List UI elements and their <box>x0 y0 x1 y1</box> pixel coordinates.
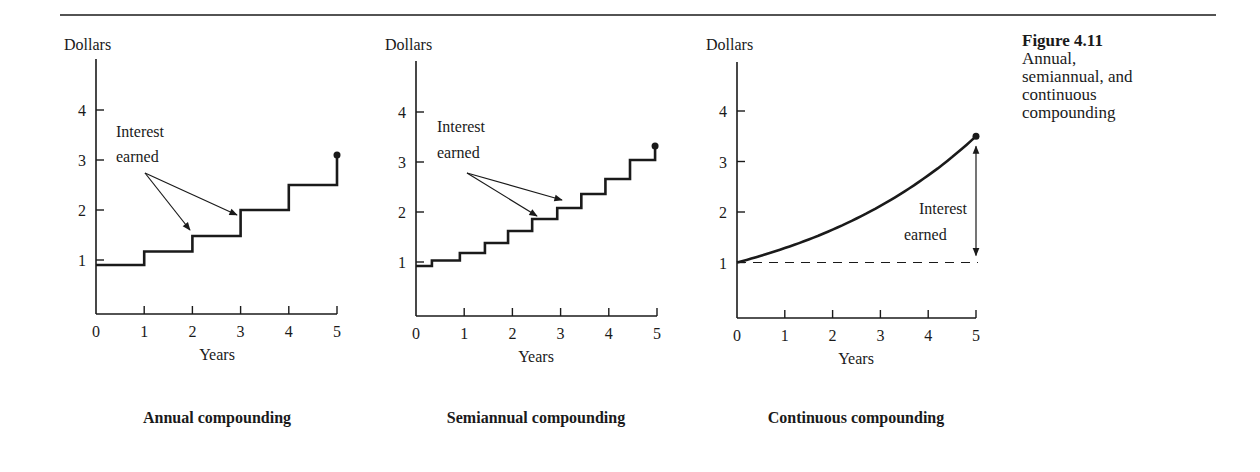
x-tick-label: 3 <box>876 327 884 344</box>
y-tick-label: 1 <box>398 254 406 271</box>
x-tick-label: 4 <box>285 323 293 340</box>
step-line <box>96 155 337 265</box>
figure-caption: Figure 4.11 Annual, semiannual, and cont… <box>1022 32 1222 122</box>
y-ticks: 1234 <box>78 102 104 269</box>
y-axis-label: Dollars <box>64 36 111 53</box>
chart-title: Semiannual compounding <box>447 409 625 427</box>
x-axis-label: Years <box>518 348 554 365</box>
y-axis-label: Dollars <box>706 36 753 53</box>
y-tick-label: 4 <box>398 104 406 121</box>
caption-line: semiannual, and <box>1022 68 1222 86</box>
y-tick-label: 3 <box>78 152 86 169</box>
chart-title: Continuous compounding <box>768 409 945 427</box>
y-tick-label: 3 <box>398 154 406 171</box>
chart-continuous: Dollars 1234 012345 Years Interest earne… <box>706 36 980 427</box>
x-tick-label: 5 <box>972 327 980 344</box>
annotation-arrow <box>467 173 537 216</box>
x-tick-label: 4 <box>924 327 932 344</box>
y-ticks: 1234 <box>719 103 745 272</box>
x-tick-label: 0 <box>412 325 420 342</box>
end-point-marker <box>652 143 659 150</box>
x-tick-label: 2 <box>829 327 837 344</box>
step-series <box>416 146 655 266</box>
y-axis-label: Dollars <box>385 36 432 53</box>
figure-number: Figure 4.11 <box>1022 32 1222 50</box>
annotation-line-1: Interest <box>437 118 486 135</box>
y-ticks: 1234 <box>398 104 424 271</box>
y-tick-label: 2 <box>398 204 406 221</box>
chart-semiannual: Dollars 1234 012345 Years Interest earne… <box>385 36 661 427</box>
x-tick-label: 3 <box>237 323 245 340</box>
x-ticks: 012345 <box>92 306 341 340</box>
y-tick-label: 4 <box>78 102 86 119</box>
x-tick-label: 2 <box>188 323 196 340</box>
annotation-arrow <box>145 173 237 215</box>
x-ticks: 012345 <box>733 310 980 344</box>
x-axis-label: Years <box>199 346 235 363</box>
x-tick-label: 1 <box>781 327 789 344</box>
x-tick-label: 1 <box>460 325 468 342</box>
y-tick-label: 2 <box>719 204 727 221</box>
annotation-line-1: Interest <box>919 200 968 217</box>
y-tick-label: 4 <box>719 103 727 120</box>
x-axis-label: Years <box>838 350 874 367</box>
caption-line: Annual, <box>1022 50 1222 68</box>
x-ticks: 012345 <box>412 308 661 342</box>
end-point-marker <box>334 152 341 159</box>
y-tick-label: 3 <box>719 154 727 171</box>
x-tick-label: 3 <box>557 325 565 342</box>
annotation-line-2: earned <box>437 144 480 161</box>
chart-annual: Dollars 1234 012345 Years Interest earne… <box>64 36 341 427</box>
x-tick-label: 5 <box>653 325 661 342</box>
step-series <box>96 155 337 265</box>
y-tick-label: 1 <box>78 252 86 269</box>
annotation-arrow <box>145 173 190 230</box>
x-tick-label: 0 <box>733 327 741 344</box>
y-tick-label: 2 <box>78 202 86 219</box>
y-tick-label: 1 <box>719 255 727 272</box>
step-line <box>416 146 655 266</box>
caption-line: compounding <box>1022 104 1222 122</box>
x-tick-label: 4 <box>605 325 613 342</box>
x-tick-label: 1 <box>140 323 148 340</box>
x-tick-label: 2 <box>508 325 516 342</box>
chart-title: Annual compounding <box>143 409 291 427</box>
x-tick-label: 0 <box>92 323 100 340</box>
annotation-line-1: Interest <box>116 123 165 140</box>
annotation-line-2: earned <box>116 148 159 165</box>
caption-line: continuous <box>1022 86 1222 104</box>
annotation-arrow <box>467 173 562 200</box>
annotation-line-2: earned <box>904 226 947 243</box>
x-tick-label: 5 <box>333 323 341 340</box>
end-point-marker <box>973 133 980 140</box>
